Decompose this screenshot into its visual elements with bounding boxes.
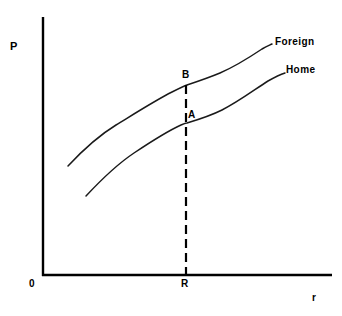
origin-label: 0: [29, 279, 35, 289]
economics-line-chart: P 0 R r Foreign Home B A: [0, 0, 342, 316]
home-curve-label: Home: [286, 65, 315, 75]
y-axis-label: P: [10, 41, 18, 52]
point-a-label: A: [188, 110, 196, 120]
x-axis-label: r: [312, 293, 316, 303]
point-b-label: B: [182, 70, 190, 80]
chart-canvas: [0, 0, 342, 316]
foreign-curve-label: Foreign: [275, 37, 314, 47]
foreign-curve: [68, 44, 272, 166]
x-tick-label-r: R: [181, 279, 189, 289]
